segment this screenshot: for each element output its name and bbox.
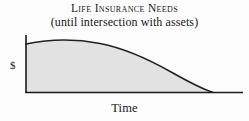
x-axis-label: Time (0, 101, 249, 115)
life-insurance-needs-figure: Life Insurance Needs (until intersection… (0, 0, 249, 121)
y-axis-label: $ (10, 60, 16, 71)
